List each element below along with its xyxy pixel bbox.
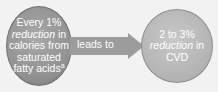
cause-node: Every 1% reduction in calories from satu… (6, 6, 72, 86)
effect-text: 2 to 3% reduction in CVD (150, 29, 204, 64)
cause-emphasis: reduction (12, 28, 55, 40)
effect-node: 2 to 3% reduction in CVD (141, 9, 213, 83)
footnote-marker: a (61, 62, 65, 69)
effect-emphasis: reduction (150, 39, 193, 51)
arrow-label: leads to (77, 38, 114, 50)
leads-to-arrow: leads to (70, 33, 144, 59)
cause-text: Every 1% reduction in calories from satu… (9, 17, 69, 75)
cause-line-5-text: fatty acids (13, 62, 60, 74)
effect-line-3: CVD (150, 52, 204, 64)
effect-line-2-rest: in (193, 39, 204, 51)
cause-line-2-rest: in (55, 28, 66, 40)
cause-line-5: fatty acidsa (9, 63, 69, 75)
